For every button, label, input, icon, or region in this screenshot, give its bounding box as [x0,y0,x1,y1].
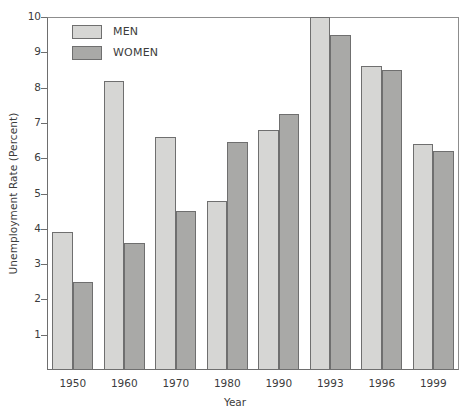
bar-women-1960 [124,243,145,370]
bar-women-1950 [73,282,94,370]
unemployment-bar-chart: Unemployment Rate (Percent) 12345678910 … [0,0,470,413]
y-tick-label-3: 3 [17,258,41,269]
legend-item-women: WOMEN [72,43,158,62]
legend-label-women: WOMEN [113,46,158,59]
legend-item-men: MEN [72,22,158,41]
bars-layer [47,17,459,370]
bar-women-1970 [176,211,197,370]
bar-men-1999 [413,144,434,370]
y-tick-label-10: 10 [17,11,41,22]
bar-men-1960 [104,81,125,370]
bar-women-1980 [227,142,248,370]
bar-men-1993 [310,17,331,370]
y-tick-label-9: 9 [17,46,41,57]
y-tick-label-8: 8 [17,82,41,93]
legend-swatch-women-icon [72,46,102,60]
bar-men-1950 [52,232,73,370]
bar-women-1999 [433,151,454,370]
bar-women-1990 [279,114,300,370]
bar-men-1970 [155,137,176,370]
bar-women-1996 [382,70,403,370]
bar-men-1980 [207,201,228,370]
bar-men-1996 [361,66,382,370]
y-tick-label-2: 2 [17,293,41,304]
bar-men-1990 [258,130,279,370]
y-tick-label-4: 4 [17,223,41,234]
bar-women-1993 [330,35,351,370]
y-tick-label-7: 7 [17,117,41,128]
y-tick-label-1: 1 [17,329,41,340]
x-axis-title: Year [0,396,470,408]
x-tick-label-1999: 1999 [403,377,463,389]
legend-swatch-men-icon [72,25,102,39]
chart-legend: MEN WOMEN [72,22,158,64]
y-tick-label-5: 5 [17,188,41,199]
legend-label-men: MEN [113,25,138,38]
y-tick-label-6: 6 [17,152,41,163]
